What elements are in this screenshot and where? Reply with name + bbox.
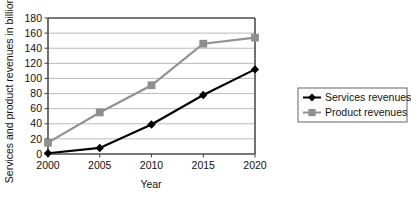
y-tick-label: 40 bbox=[30, 117, 42, 129]
legend-label-services: Services revenues bbox=[325, 91, 411, 103]
x-axis-title: Year bbox=[140, 178, 162, 190]
y-tick-label: 140 bbox=[24, 42, 42, 54]
y-axis-title: Services and product revenues in billion… bbox=[3, 0, 15, 183]
x-tick-label: 2005 bbox=[88, 159, 112, 171]
line-chart: Services and product revenues in billion… bbox=[0, 0, 411, 212]
y-tick-label: 20 bbox=[30, 133, 42, 145]
data-point-marker-products bbox=[148, 81, 156, 89]
y-axis-title-group: Services and product revenues in billion… bbox=[3, 0, 15, 183]
y-tick-label: 80 bbox=[30, 87, 42, 99]
x-axis-ticks: 20002005201020152020 bbox=[36, 154, 267, 171]
y-tick-label: 120 bbox=[24, 57, 42, 69]
data-point-marker-products bbox=[199, 40, 207, 48]
data-point-marker-services bbox=[251, 65, 259, 73]
legend-label-products: Product revenues bbox=[325, 106, 407, 118]
x-tick-label: 2020 bbox=[243, 159, 267, 171]
data-point-marker-products bbox=[96, 109, 104, 117]
chart-canvas: Services and product revenues in billion… bbox=[0, 0, 411, 212]
y-tick-label: 160 bbox=[24, 27, 42, 39]
y-tick-label: 100 bbox=[24, 72, 42, 84]
y-tick-label: 60 bbox=[30, 102, 42, 114]
legend: Services revenues Product revenues bbox=[298, 88, 411, 122]
data-point-marker-products bbox=[44, 139, 52, 147]
x-tick-label: 2010 bbox=[140, 159, 164, 171]
x-tick-label: 2015 bbox=[192, 159, 216, 171]
y-tick-label: 180 bbox=[24, 12, 42, 24]
y-tick-label: 0 bbox=[36, 148, 42, 160]
data-point-marker-products bbox=[251, 34, 259, 42]
x-tick-label: 2000 bbox=[36, 159, 60, 171]
data-point-marker-services bbox=[96, 144, 104, 152]
data-point-marker-services bbox=[44, 149, 52, 157]
legend-marker-square-icon bbox=[308, 109, 315, 116]
y-axis-ticks: 020406080100120140160180 bbox=[24, 12, 48, 160]
